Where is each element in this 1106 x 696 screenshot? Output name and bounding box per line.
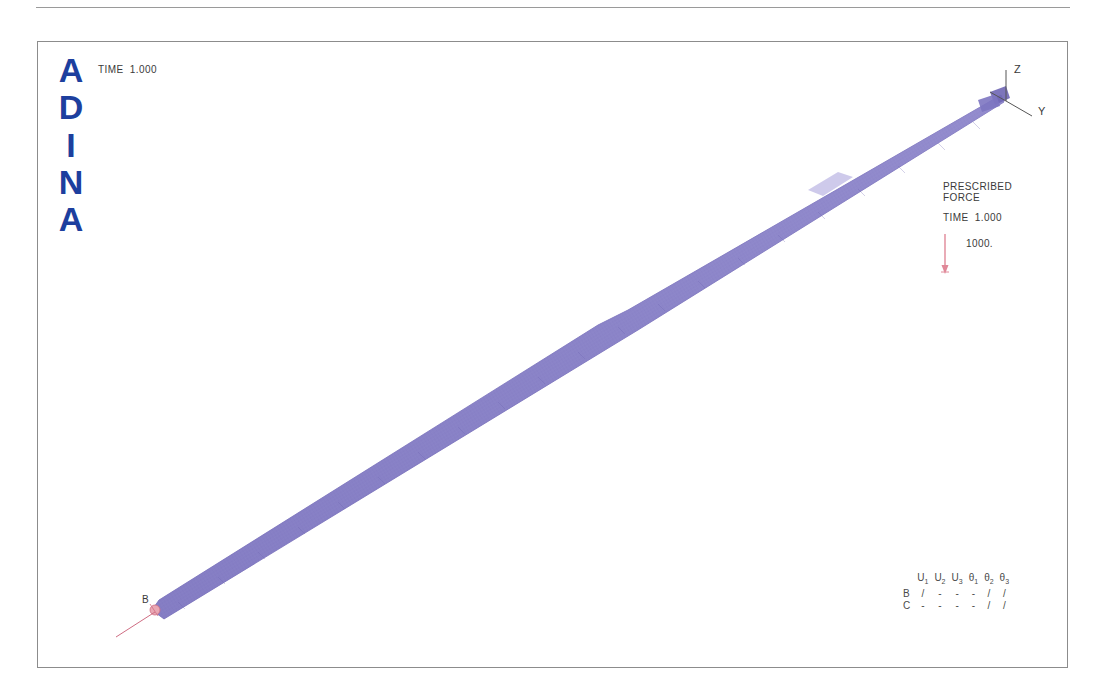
bc-cell-c-u3: - [949, 600, 966, 612]
bc-header-u1: U1 [914, 572, 931, 588]
bc-cell-b-u2: - [931, 588, 948, 600]
legend-title-line2: FORCE [943, 192, 980, 203]
axis-triad [990, 70, 1032, 116]
beam-mesh [152, 86, 1010, 619]
bc-header-t1: θ1 [966, 572, 981, 588]
boundary-condition-table: U1 U2 U3 θ1 θ2 θ3 B / - - - / / C - - - [900, 572, 1012, 612]
bc-cell-b-t1: - [966, 588, 981, 600]
bc-cell-c-t2: / [981, 600, 996, 612]
bc-header-t3: θ3 [997, 572, 1012, 588]
bc-corner-cell [900, 572, 914, 588]
bc-cell-b-t3: / [997, 588, 1012, 600]
support-marker [116, 604, 160, 637]
bc-header-u3: U3 [949, 572, 966, 588]
legend-title-line1: PRESCRIBED [943, 181, 1012, 192]
bc-row-c: C - - - - / / [900, 600, 1012, 612]
adina-logo-letter-1: A [59, 54, 84, 86]
adina-logo-letter-3: I [66, 129, 75, 161]
bc-cell-c-t1: - [966, 600, 981, 612]
time-label: TIME 1.000 [98, 64, 157, 75]
adina-logo-letter-4: N [59, 166, 84, 198]
bc-cell-b-t2: / [981, 588, 996, 600]
adina-logo-letter-2: D [59, 91, 84, 123]
node-label-b: B [142, 594, 149, 605]
bc-row-b: B / - - - / / [900, 588, 1012, 600]
bc-cell-b-u3: - [949, 588, 966, 600]
adina-logo: A D I N A [51, 54, 91, 240]
legend-force-magnitude: 1000. [966, 238, 993, 249]
axis-z-label: Z [1014, 63, 1021, 75]
page-top-divider [36, 7, 1070, 8]
bc-header-row: U1 U2 U3 θ1 θ2 θ3 [900, 572, 1012, 588]
bc-cell-c-t3: / [997, 600, 1012, 612]
bc-header-t2: θ2 [981, 572, 996, 588]
force-arrow-icon [941, 234, 949, 274]
bc-header-u2: U2 [931, 572, 948, 588]
bc-cell-b-u1: / [914, 588, 931, 600]
plot-frame: A D I N A TIME 1.000 [37, 41, 1068, 668]
bc-cell-c-u1: - [914, 600, 931, 612]
axis-y-label: Y [1038, 105, 1046, 117]
bc-cell-c-u2: - [931, 600, 948, 612]
adina-logo-letter-5: A [59, 203, 84, 235]
bc-row-label-b: B [900, 588, 914, 600]
legend-time-label: TIME 1.000 [943, 212, 1002, 223]
bc-row-label-c: C [900, 600, 914, 612]
